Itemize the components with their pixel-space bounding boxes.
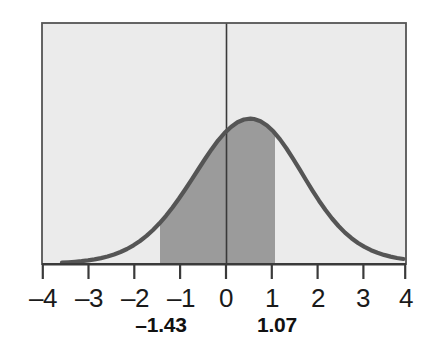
x-tick-label-neg4: –4 [20,285,66,311]
normal-distribution-figure: –4 –3 –2 –1 0 1 2 3 4 –1.43 1.07 [0,0,426,342]
annotation-upper-bound: 1.07 [217,314,337,335]
x-tick-label-neg2: –2 [112,285,158,311]
x-tick-label-1: 1 [249,285,295,311]
x-tick-label-3: 3 [340,285,386,311]
annotation-lower-bound: –1.43 [101,314,221,335]
x-axis-ticks [43,264,405,279]
x-tick-label-neg1: –1 [158,285,204,311]
x-tick-label-4: 4 [383,285,426,311]
x-tick-label-2: 2 [295,285,341,311]
x-tick-label-neg3: –3 [66,285,112,311]
x-tick-label-0: 0 [203,285,249,311]
